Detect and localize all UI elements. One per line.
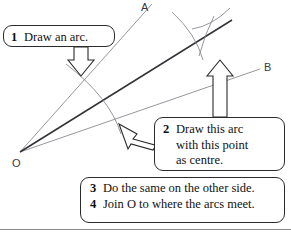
step-number: 4 [90, 197, 98, 213]
up-arrow [207, 60, 233, 117]
down-arrow [68, 47, 94, 76]
step-number: 2 [163, 122, 171, 138]
step-text: Do the same on the other side. [103, 181, 255, 197]
step-text: Draw an arc. [24, 28, 88, 46]
step-number: 1 [11, 28, 19, 46]
callout-line: 2 Draw this arc [163, 122, 276, 138]
callout-step-2: 2 Draw this arc with this point as centr… [154, 117, 285, 171]
callout-line: with this point [163, 138, 276, 154]
step-text-continued: with this point [176, 138, 248, 154]
step-text-continued: as centre. [176, 153, 223, 169]
step-number: 3 [90, 181, 98, 197]
callout-line: 4 Join O to where the arcs meet. [90, 197, 275, 213]
callout-line: as centre. [163, 153, 276, 169]
callout-steps-3-4: 3 Do the same on the other side. 4 Join … [80, 177, 285, 223]
arc-from-oa-point [192, 8, 230, 29]
callout-line: 1 Draw an arc. [11, 28, 107, 46]
up-left-arrow [119, 124, 158, 150]
arc-from-ob-point [172, 12, 203, 60]
ray-label-a: A [141, 2, 149, 13]
callout-step-1: 1 Draw an arc. [3, 25, 115, 47]
angle-bisector-figure: A B O 1 Draw an arc. 2 Draw this arc wit… [0, 0, 291, 236]
ray-label-b: B [264, 62, 272, 73]
bottom-divider [0, 229, 291, 230]
vertex-label-o: O [12, 158, 21, 169]
step-text: Join O to where the arcs meet. [103, 197, 255, 213]
step-text: Draw this arc [176, 122, 243, 138]
callout-line: 3 Do the same on the other side. [90, 181, 275, 197]
arc-from-vertex [66, 64, 121, 134]
